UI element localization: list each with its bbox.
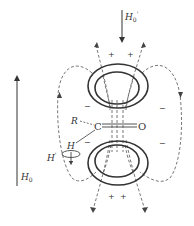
- svg-text:+: +: [108, 50, 115, 59]
- induced-field-label: H0': [124, 10, 139, 23]
- carbonyl-anisotropy-diagram: H0 H0': [0, 0, 194, 226]
- hydrogen-atom-label: H: [66, 141, 75, 151]
- svg-text:+: +: [120, 192, 127, 201]
- svg-text:−: −: [159, 104, 166, 113]
- r-group-label: R: [70, 116, 78, 126]
- svg-text:+: +: [108, 192, 115, 201]
- applied-field-label: H0: [20, 172, 33, 183]
- local-circulation-icon: [62, 151, 80, 164]
- svg-text:−: −: [84, 138, 91, 147]
- svg-text:−: −: [159, 139, 166, 148]
- local-field-label: H': [46, 151, 57, 163]
- bottom-ring-current: [88, 141, 148, 185]
- svg-text:+: +: [127, 50, 134, 59]
- svg-text:−: −: [84, 102, 91, 111]
- oxygen-atom-label: O: [138, 121, 146, 132]
- carbonyl-bond: [102, 124, 137, 127]
- r-bond: [80, 121, 94, 125]
- top-ring-current: [88, 64, 148, 108]
